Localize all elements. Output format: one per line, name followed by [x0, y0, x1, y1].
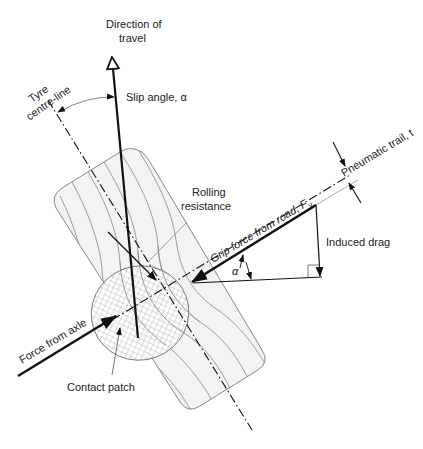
label-slip-angle: Slip angle, α [126, 91, 187, 103]
diagram-svg: Direction of travel Tyre centre-line Sli… [0, 0, 423, 449]
label-tyre-centre-line: Tyre centre-line [16, 72, 72, 122]
label-pneumatic-trail: Pneumatic trail, t [339, 126, 415, 178]
label-force-from-axle: Force from axle [17, 316, 89, 366]
grip-force-arrow [192, 205, 316, 282]
label-direction-of-travel-1: Direction of [106, 18, 163, 30]
label-contact-patch: Contact patch [67, 381, 135, 393]
pneumatic-trail-arrow-bottom [349, 183, 361, 203]
label-induced-drag: Induced drag [326, 236, 390, 248]
svg-text:Pneumatic trail, t: Pneumatic trail, t [339, 126, 415, 178]
pneumatic-trail-arrow-top [333, 142, 345, 166]
label-rolling-resistance-2: resistance [181, 200, 231, 212]
slip-angle-arc [58, 97, 113, 112]
label-direction-of-travel-2: travel [119, 32, 146, 44]
svg-text:Force from axle: Force from axle [17, 316, 89, 366]
label-rolling-resistance-1: Rolling [192, 186, 226, 198]
alpha-arc-arrow-bottom [246, 262, 251, 279]
alpha-arc-arrow-top [240, 255, 243, 268]
right-angle-marker [308, 265, 320, 277]
tyre-slip-diagram: Direction of travel Tyre centre-line Sli… [0, 0, 423, 449]
label-alpha: α [232, 265, 239, 277]
pneumatic-trail-reference-line [316, 180, 358, 205]
